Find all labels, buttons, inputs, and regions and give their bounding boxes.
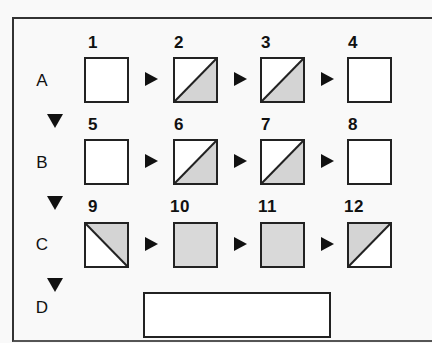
cell-2-diagonal (173, 57, 218, 102)
cell-number: 11 (258, 197, 277, 217)
row-label-a: A (32, 71, 52, 91)
row-label-b: B (32, 153, 52, 173)
right-arrow-icon (145, 72, 158, 86)
right-arrow-icon (234, 154, 247, 168)
cell-3-diagonal (260, 57, 305, 102)
cell-11-shaded (260, 222, 305, 267)
cell-6-diagonal (173, 139, 218, 184)
cell-number: 5 (88, 115, 98, 135)
right-arrow-icon (145, 237, 158, 251)
row-label-d: D (32, 298, 52, 318)
right-arrow-icon (234, 237, 247, 251)
cell-7-diagonal (260, 139, 305, 184)
right-arrow-icon (321, 237, 334, 251)
cell-12-diagonal (347, 222, 392, 267)
right-arrow-icon (321, 72, 334, 86)
cell-number: 3 (261, 33, 271, 53)
cell-number: 2 (174, 33, 184, 53)
answer-box[interactable] (143, 292, 331, 338)
right-arrow-icon (321, 154, 334, 168)
cell-number: 4 (348, 33, 358, 53)
right-arrow-icon (234, 72, 247, 86)
cell-4-blank (347, 57, 392, 102)
cell-9-diagonal (84, 222, 129, 267)
down-arrow-icon (47, 196, 63, 210)
down-arrow-icon (47, 114, 63, 128)
row-label-c: C (32, 235, 52, 255)
cell-number: 6 (174, 115, 184, 135)
cell-number: 10 (170, 197, 190, 217)
cell-8-blank (347, 139, 392, 184)
cell-number: 7 (261, 115, 271, 135)
cell-5-blank (84, 139, 129, 184)
cell-number: 1 (88, 33, 98, 53)
right-arrow-icon (145, 154, 158, 168)
down-arrow-icon (47, 278, 63, 292)
cell-10-shaded (173, 222, 218, 267)
cell-number: 9 (88, 197, 98, 217)
cell-1-blank (84, 57, 129, 102)
cell-number: 12 (344, 197, 364, 217)
cell-number: 8 (348, 115, 358, 135)
